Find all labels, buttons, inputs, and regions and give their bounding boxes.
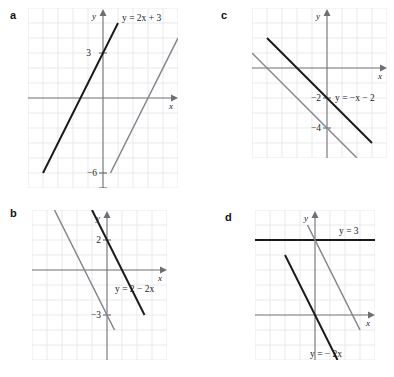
line-y-neg-x-minus-4: [252, 53, 357, 158]
chart-svg-d: x y y = 3 y = − 2x: [255, 210, 375, 360]
x-axis-label-b: x: [157, 273, 162, 283]
x-axis-label-c: x: [377, 71, 382, 81]
y-axis-arrow-b: [104, 211, 111, 218]
x-axis-label-d: x: [365, 318, 370, 328]
panel-letter-b: b: [10, 208, 17, 219]
plot-area-b: x y 2 −3 y = 2 − 2x: [32, 210, 167, 360]
y-tick-neg2-c: −2: [311, 93, 321, 103]
panel-letter-d: d: [225, 212, 232, 223]
y-tick-3-a: 3: [86, 48, 91, 58]
y-axis-arrow-d: [312, 211, 319, 218]
y-tick-neg6-a: −6: [87, 168, 97, 178]
y-axis-arrow-c: [324, 9, 331, 16]
equation-label-a: y = 2x + 3: [122, 13, 161, 23]
y-axis-arrow-a: [100, 9, 107, 16]
equation-label-d-slope: y = − 2x: [310, 349, 342, 359]
y-tick-neg3-b: −3: [91, 310, 101, 320]
chart-svg-b: x y 2 −3 y = 2 − 2x: [32, 210, 167, 360]
x-axis-label-a: x: [168, 101, 173, 111]
chart-svg-a: x y 3 −6 y = 2x + 3: [28, 8, 178, 188]
y-tick-neg4-c: −4: [311, 123, 321, 133]
panel-c: c: [197, 0, 394, 190]
equation-label-d-horizontal: y = 3: [339, 226, 359, 236]
y-axis-label-a: y: [91, 11, 96, 21]
line-y-2x-minus-6: [111, 38, 179, 173]
panel-letter-a: a: [10, 10, 16, 21]
equation-label-b: y = 2 − 2x: [115, 284, 154, 294]
figure-page: a: [0, 0, 394, 377]
panel-letter-c: c: [221, 10, 227, 21]
y-tick-2-b: 2: [96, 235, 101, 245]
y-axis-label-b: y: [95, 213, 100, 223]
equation-label-c: y = −x − 2: [335, 93, 375, 103]
plot-area-c: x y −2 −4 y = −x − 2: [252, 8, 387, 158]
panel-b: b: [0, 190, 197, 377]
grid-lines-c: [252, 8, 387, 158]
plot-area-a: x y 3 −6 y = 2x + 3: [28, 8, 178, 188]
y-axis-label-c: y: [315, 11, 320, 21]
y-axis-label-d: y: [303, 213, 308, 223]
plot-area-d: x y y = 3 y = − 2x: [255, 210, 375, 360]
panel-a: a: [0, 0, 197, 190]
panel-d: d: [197, 190, 394, 377]
chart-svg-c: x y −2 −4 y = −x − 2: [252, 8, 387, 158]
axes-a: [28, 9, 178, 188]
